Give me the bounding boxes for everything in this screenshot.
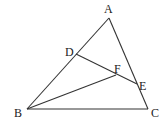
point-labels: A B C D E F <box>14 2 159 120</box>
segment-BF <box>27 75 116 109</box>
triangle-diagram: A B C D E F <box>0 0 168 128</box>
label-E: E <box>139 79 146 93</box>
label-D: D <box>65 45 74 59</box>
label-A: A <box>104 2 113 16</box>
label-C: C <box>151 106 159 120</box>
segment-DE <box>76 54 137 84</box>
label-F: F <box>114 62 121 76</box>
segments <box>27 18 148 109</box>
segment-AB <box>27 18 109 109</box>
label-B: B <box>14 106 22 120</box>
